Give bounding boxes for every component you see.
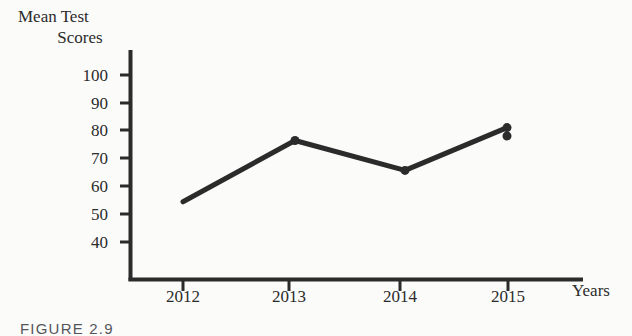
- x-axis-ticks: [183, 280, 508, 291]
- data-line-mean-test-scores: [183, 128, 507, 202]
- axis-lines: [129, 50, 584, 281]
- line-chart-plot: [0, 0, 632, 336]
- data-point-2015: [503, 132, 512, 141]
- data-point-2012: [291, 136, 300, 145]
- figure-caption: FIGURE 2.9: [20, 320, 114, 336]
- data-point-2013: [401, 166, 410, 175]
- figure-container: Mean Test Scores Years 100 90 80 70 60 5…: [0, 0, 632, 336]
- data-point-2014: [503, 123, 512, 132]
